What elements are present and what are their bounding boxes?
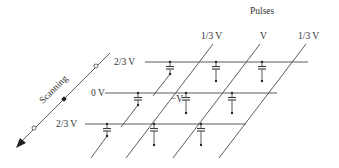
capacitor-r1c1 [166, 61, 174, 75]
column-label-1: 1/3 V [201, 31, 222, 41]
open-circle-icon [32, 126, 36, 130]
capacitor-r3c1 [103, 123, 111, 137]
capacitor-r3c3 [197, 123, 205, 146]
matrix-addressing-diagram: Pulses 1/3 V V 1/3 V 2/3 V 0 V 2/3 V [0, 0, 339, 168]
capacitor-r1c2 [212, 61, 220, 82]
column-segment [91, 136, 107, 158]
open-circle-icon [94, 64, 98, 68]
column-label-3: 1/3 V [298, 31, 319, 41]
scanning-direction-arrow [16, 53, 110, 148]
capacitor-r2c3 [228, 92, 236, 114]
capacitor-r2c1 [134, 92, 142, 106]
column-label-2: V [260, 31, 267, 41]
row-label-3: 2/3 V [56, 119, 77, 129]
capacitor-r3c2 [150, 123, 158, 146]
cell-voltage-annotation: −V [171, 94, 183, 104]
pulses-title: Pulses [250, 6, 275, 16]
row-label-1: 2/3 V [114, 57, 135, 67]
row-label-2: 0 V [91, 88, 105, 98]
arrowhead-icon [16, 138, 26, 148]
capacitor-r1c3 [258, 61, 266, 82]
